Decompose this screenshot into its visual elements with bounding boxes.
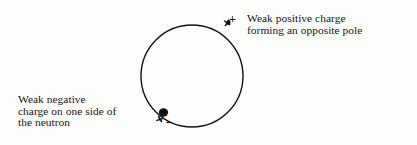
negative-charge-caption: Weak negative charge on one side of the … bbox=[18, 94, 116, 129]
positive-caption-line-2: forming an opposite pole bbox=[247, 25, 362, 37]
negative-caption-line-1: Weak negative bbox=[18, 94, 116, 106]
negative-sign-glyph: - bbox=[166, 115, 170, 128]
neutron-charge-diagram: + - Weak positive charge forming an oppo… bbox=[0, 0, 417, 145]
positive-charge-caption: Weak positive charge forming an opposite… bbox=[247, 13, 362, 36]
neutron-circle bbox=[141, 25, 243, 127]
positive-sign-glyph: + bbox=[229, 13, 236, 25]
negative-caption-line-3: the neutron bbox=[18, 117, 116, 129]
positive-caption-line-1: Weak positive charge bbox=[247, 13, 362, 25]
